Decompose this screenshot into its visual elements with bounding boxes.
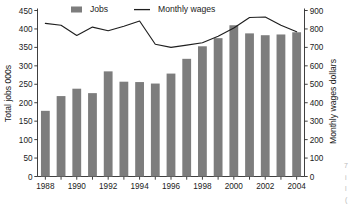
x-axis-tick-label: 1994: [130, 182, 149, 191]
legend-label-monthly-wages: Monthly wages: [158, 4, 215, 14]
left-axis-title: Total jobs 000s: [3, 65, 13, 122]
left-axis-tick-label: 150: [19, 117, 33, 126]
bar-1997[interactable]: [182, 59, 191, 177]
left-axis-tick-label: 100: [19, 136, 33, 145]
legend-swatch-jobs: [71, 7, 82, 13]
left-axis-tick-label: 50: [23, 154, 33, 163]
right-axis-tick-label: 0: [310, 173, 315, 182]
x-axis-tick-label: 2004: [288, 182, 307, 191]
x-axis-tick-label: 1996: [162, 182, 181, 191]
legend: JobsMonthly wages: [71, 4, 215, 14]
x-axis-tick-label: 2002: [256, 182, 275, 191]
bar-1991[interactable]: [88, 93, 97, 176]
page-edge-fragment-4: (: [345, 196, 347, 204]
left-axis-tick-label: 200: [19, 99, 33, 108]
legend-label-jobs: Jobs: [90, 4, 108, 14]
left-axis-tick-label: 0: [28, 173, 33, 182]
x-axis-tick-label: 1988: [36, 182, 55, 191]
bar-1993[interactable]: [119, 82, 128, 177]
left-axis-tick-label: 450: [19, 7, 33, 16]
right-axis-tick-label: 200: [310, 136, 324, 145]
bar-2004[interactable]: [292, 32, 301, 176]
x-axis-tick-label: 1990: [68, 182, 87, 191]
page-edge-fragment-2: i: [345, 174, 347, 182]
left-axis-tick-label: 400: [19, 25, 33, 34]
x-axis-tick-label: 1992: [99, 182, 118, 191]
bar-2000[interactable]: [229, 25, 238, 176]
right-axis-tick-label: 100: [310, 154, 324, 163]
page-edge-fragment-1: 7: [344, 162, 348, 170]
left-axis-tick-label: 350: [19, 43, 33, 52]
bar-1999[interactable]: [214, 38, 223, 176]
right-axis-tick-label: 800: [310, 25, 324, 34]
right-axis-tick-label: 900: [310, 7, 324, 16]
bar-1994[interactable]: [135, 82, 144, 176]
bar-1995[interactable]: [151, 84, 160, 177]
monthly-wages-line[interactable]: [45, 17, 296, 47]
bar-1988[interactable]: [41, 111, 50, 177]
chart-container: 0501001502002503003504004500100200300400…: [0, 0, 354, 207]
left-axis-tick-label: 300: [19, 62, 33, 71]
bar-2002[interactable]: [261, 35, 270, 176]
right-axis-tick-label: 600: [310, 62, 324, 71]
bar-1989[interactable]: [57, 96, 66, 176]
bar-1990[interactable]: [72, 89, 81, 177]
x-axis-tick-label: 2000: [225, 182, 244, 191]
right-axis-title: Monthly wages dollars: [328, 59, 338, 144]
right-axis-tick-label: 700: [310, 43, 324, 52]
bar-1998[interactable]: [198, 46, 207, 176]
right-axis-tick-label: 400: [310, 99, 324, 108]
right-axis-tick-label: 500: [310, 80, 324, 89]
right-axis-tick-label: 300: [310, 117, 324, 126]
left-axis-tick-label: 250: [19, 80, 33, 89]
x-axis-tick-label: 1998: [193, 182, 212, 191]
bar-2001[interactable]: [245, 33, 254, 176]
bar-2003[interactable]: [277, 34, 286, 176]
bar-1992[interactable]: [104, 71, 113, 176]
page-edge-fragment-3: l: [345, 185, 347, 193]
bar-1996[interactable]: [167, 74, 176, 177]
line-series-group: [45, 17, 296, 47]
dual-axis-bar-line-chart: 0501001502002503003504004500100200300400…: [0, 0, 354, 207]
